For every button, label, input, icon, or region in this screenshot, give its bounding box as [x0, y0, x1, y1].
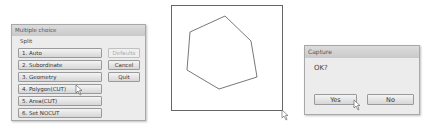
capture-dialog: Capture OK? Yes No — [304, 45, 420, 115]
defaults-button[interactable]: Defaults — [108, 48, 140, 58]
mouse-cursor-icon — [281, 110, 289, 121]
split-prompt: Split — [20, 38, 32, 44]
option-set-nocut-button[interactable]: 6. Set NOCUT — [18, 108, 102, 118]
drawing-canvas[interactable] — [171, 5, 283, 111]
mouse-cursor-icon — [75, 85, 83, 96]
capture-message: OK? — [314, 64, 328, 72]
quit-button[interactable]: Quit — [108, 72, 140, 82]
option-geometry-button[interactable]: 3. Geometry — [18, 72, 102, 82]
option-subordinate-button[interactable]: 2. Subordinate — [18, 60, 102, 70]
mouse-cursor-icon — [353, 100, 361, 111]
dialog-title: Multiple choice — [12, 25, 145, 36]
no-button[interactable]: No — [367, 94, 414, 105]
multiple-choice-dialog: Multiple choice Split 1. Auto 2. Subordi… — [11, 24, 146, 121]
dialog-title: Capture — [305, 46, 419, 58]
cancel-button[interactable]: Cancel — [108, 60, 140, 70]
option-auto-button[interactable]: 1. Auto — [18, 48, 102, 58]
polygon-shape — [172, 6, 282, 110]
option-area-cut-button[interactable]: 5. Area(CUT) — [18, 96, 102, 106]
yes-button[interactable]: Yes — [314, 94, 357, 105]
option-polygon-cut-button[interactable]: 4. Polygon(CUT) — [18, 84, 102, 94]
